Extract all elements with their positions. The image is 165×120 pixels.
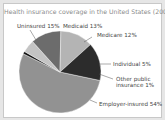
leader-line <box>90 100 97 103</box>
label-uninsured: Uninsured 15% <box>17 23 60 30</box>
label-individual: Individual 5% <box>113 61 151 68</box>
label-other-public-2: insurance 1% <box>116 82 154 89</box>
label-employer: Employer-insured 54% <box>99 101 162 108</box>
leader-line <box>30 30 36 40</box>
label-medicaid: Medicaid 13% <box>63 23 102 30</box>
label-medicare: Medicare 12% <box>97 32 137 39</box>
leader-line <box>99 74 113 79</box>
